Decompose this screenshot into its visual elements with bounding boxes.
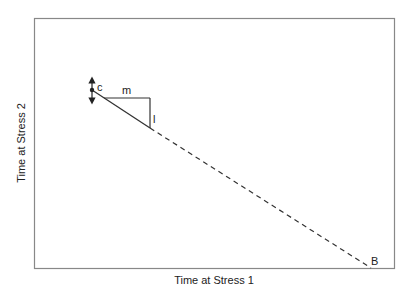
label-b: B — [371, 255, 378, 267]
diagram-canvas: c m l B Time at Stress 1 Time at Stress … — [0, 0, 414, 294]
intercept-point — [90, 88, 94, 92]
label-c: c — [97, 81, 103, 93]
solid-line-segment — [92, 90, 150, 128]
plot-frame — [35, 19, 395, 269]
y-axis-label: Time at Stress 2 — [15, 103, 27, 183]
dashed-extrapolation-line — [150, 128, 371, 268]
x-axis-label: Time at Stress 1 — [174, 274, 254, 286]
label-l: l — [153, 113, 155, 125]
label-m: m — [122, 84, 131, 96]
